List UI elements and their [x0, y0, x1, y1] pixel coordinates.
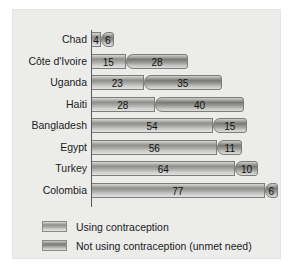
bar-value-label: 28	[127, 55, 188, 70]
bar-segment-using-contraception: 15	[92, 54, 126, 69]
legend-label: Using contraception	[76, 218, 169, 236]
bar-segment-unmet-need: 6	[101, 32, 114, 47]
category-label: Uganda	[0, 75, 87, 90]
bar-value-label: 56	[92, 141, 216, 156]
category-label: Bangladesh	[0, 118, 87, 133]
stacked-bar: 5415	[92, 118, 247, 133]
bar-segment-unmet-need: 35	[144, 75, 222, 90]
bar-segment-using-contraception: 77	[92, 183, 265, 198]
category-label: Colombia	[0, 183, 87, 198]
bar-row: Bangladesh5415	[13, 118, 280, 133]
legend-item: Not using contraception (unmet need)	[42, 237, 277, 256]
bar-row: Côte d'Ivoire1528	[13, 54, 280, 69]
bar-segment-using-contraception: 23	[92, 75, 144, 90]
stacked-bar: 1528	[92, 54, 188, 69]
legend-swatch-icon	[42, 221, 67, 232]
bar-segment-using-contraception: 54	[92, 118, 213, 133]
bar-value-label: 54	[92, 119, 212, 134]
bar-value-label: 40	[156, 98, 244, 113]
bar-row: Haiti2840	[13, 97, 280, 112]
bar-value-label: 23	[92, 76, 143, 91]
bar-value-label: 4	[92, 33, 100, 48]
bar-row: Chad46	[13, 32, 280, 47]
legend-item: Using contraception	[42, 218, 277, 237]
bar-segment-using-contraception: 28	[92, 97, 155, 112]
bar-row: Uganda2335	[13, 75, 280, 90]
bar-value-label: 28	[92, 98, 154, 113]
bar-segment-unmet-need: 6	[265, 183, 278, 198]
bar-value-label: 11	[218, 141, 241, 156]
chart-legend: Using contraceptionNot using contracepti…	[42, 218, 277, 256]
bar-value-label: 15	[214, 119, 246, 134]
bar-segment-unmet-need: 40	[155, 97, 245, 112]
bar-value-label: 6	[266, 184, 277, 199]
stacked-bar: 776	[92, 183, 278, 198]
bar-segment-unmet-need: 15	[213, 118, 247, 133]
stacked-bar: 2840	[92, 97, 244, 112]
stacked-bar: 2335	[92, 75, 222, 90]
legend-swatch-icon	[42, 240, 67, 251]
bar-segment-using-contraception: 64	[92, 161, 235, 176]
bar-value-label: 35	[145, 76, 221, 91]
bar-value-label: 64	[92, 162, 234, 177]
category-label: Chad	[0, 32, 87, 47]
category-label: Côte d'Ivoire	[0, 54, 87, 69]
plot-area: Chad46Côte d'Ivoire1528Uganda2335Haiti28…	[13, 30, 280, 207]
category-label: Haiti	[0, 97, 87, 112]
bar-segment-unmet-need: 28	[126, 54, 189, 69]
bar-segment-using-contraception: 56	[92, 140, 217, 155]
bar-segment-unmet-need: 11	[217, 140, 242, 155]
bar-row: Egypt5611	[13, 140, 280, 155]
bar-value-label: 6	[102, 33, 113, 48]
bar-value-label: 15	[92, 55, 125, 70]
bar-segment-using-contraception: 4	[92, 32, 101, 47]
bar-row: Turkey6410	[13, 161, 280, 176]
bar-value-label: 77	[92, 184, 264, 199]
legend-label: Not using contraception (unmet need)	[76, 237, 252, 255]
bar-segment-unmet-need: 10	[235, 161, 257, 176]
bar-row: Colombia776	[13, 183, 280, 198]
bar-value-label: 10	[236, 162, 256, 177]
stacked-bar: 5611	[92, 140, 242, 155]
category-label: Turkey	[0, 161, 87, 176]
stacked-bar: 46	[92, 32, 114, 47]
category-label: Egypt	[0, 140, 87, 155]
chart-panel: Chad46Côte d'Ivoire1528Uganda2335Haiti28…	[13, 10, 280, 258]
stacked-bar: 6410	[92, 161, 258, 176]
